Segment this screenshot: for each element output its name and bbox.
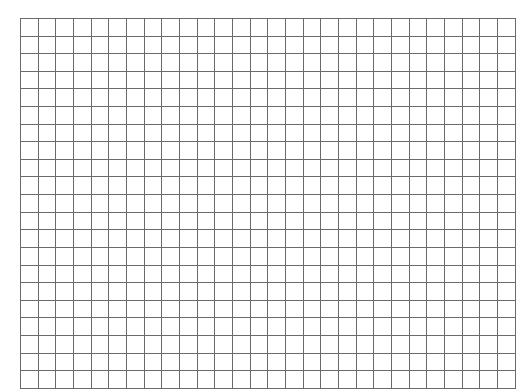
grid-cell[interactable] bbox=[445, 124, 463, 142]
grid-cell[interactable] bbox=[462, 318, 480, 336]
grid-cell[interactable] bbox=[462, 36, 480, 54]
grid-cell[interactable] bbox=[339, 71, 357, 89]
grid-cell[interactable] bbox=[109, 36, 127, 54]
grid-cell[interactable] bbox=[109, 247, 127, 265]
grid-cell[interactable] bbox=[91, 371, 109, 389]
grid-cell[interactable] bbox=[180, 247, 198, 265]
grid-cell[interactable] bbox=[374, 371, 392, 389]
grid-cell[interactable] bbox=[180, 335, 198, 353]
grid-cell[interactable] bbox=[38, 353, 56, 371]
grid-cell[interactable] bbox=[321, 247, 339, 265]
grid-cell[interactable] bbox=[233, 353, 251, 371]
grid-cell[interactable] bbox=[498, 54, 516, 72]
grid-cell[interactable] bbox=[250, 335, 268, 353]
grid-cell[interactable] bbox=[144, 124, 162, 142]
grid-cell[interactable] bbox=[180, 177, 198, 195]
grid-cell[interactable] bbox=[409, 159, 427, 177]
grid-cell[interactable] bbox=[162, 335, 180, 353]
grid-cell[interactable] bbox=[339, 247, 357, 265]
grid-cell[interactable] bbox=[162, 54, 180, 72]
grid-cell[interactable] bbox=[268, 195, 286, 213]
grid-cell[interactable] bbox=[56, 195, 74, 213]
grid-cell[interactable] bbox=[74, 353, 92, 371]
grid-cell[interactable] bbox=[462, 335, 480, 353]
grid-cell[interactable] bbox=[409, 124, 427, 142]
grid-cell[interactable] bbox=[498, 230, 516, 248]
grid-cell[interactable] bbox=[180, 300, 198, 318]
grid-cell[interactable] bbox=[480, 283, 498, 301]
grid-cell[interactable] bbox=[339, 107, 357, 125]
grid-cell[interactable] bbox=[480, 142, 498, 160]
grid-cell[interactable] bbox=[374, 124, 392, 142]
grid-cell[interactable] bbox=[56, 89, 74, 107]
grid-cell[interactable] bbox=[197, 300, 215, 318]
grid-cell[interactable] bbox=[339, 265, 357, 283]
grid-cell[interactable] bbox=[480, 71, 498, 89]
grid-cell[interactable] bbox=[445, 265, 463, 283]
grid-cell[interactable] bbox=[180, 195, 198, 213]
grid-cell[interactable] bbox=[180, 36, 198, 54]
grid-cell[interactable] bbox=[392, 212, 410, 230]
grid-cell[interactable] bbox=[162, 89, 180, 107]
grid-cell[interactable] bbox=[56, 142, 74, 160]
grid-cell[interactable] bbox=[215, 247, 233, 265]
grid-cell[interactable] bbox=[480, 230, 498, 248]
grid-cell[interactable] bbox=[286, 353, 304, 371]
grid-cell[interactable] bbox=[38, 89, 56, 107]
grid-cell[interactable] bbox=[427, 71, 445, 89]
grid-cell[interactable] bbox=[321, 318, 339, 336]
grid-cell[interactable] bbox=[127, 247, 145, 265]
grid-cell[interactable] bbox=[374, 142, 392, 160]
grid-cell[interactable] bbox=[109, 107, 127, 125]
grid-cell[interactable] bbox=[286, 230, 304, 248]
grid-cell[interactable] bbox=[321, 54, 339, 72]
grid-cell[interactable] bbox=[498, 283, 516, 301]
grid-cell[interactable] bbox=[498, 265, 516, 283]
grid-cell[interactable] bbox=[480, 318, 498, 336]
grid-cell[interactable] bbox=[215, 54, 233, 72]
grid-cell[interactable] bbox=[74, 71, 92, 89]
grid-cell[interactable] bbox=[180, 212, 198, 230]
grid-cell[interactable] bbox=[303, 177, 321, 195]
grid-cell[interactable] bbox=[109, 54, 127, 72]
grid-cell[interactable] bbox=[144, 230, 162, 248]
grid-cell[interactable] bbox=[56, 124, 74, 142]
grid-cell[interactable] bbox=[303, 230, 321, 248]
grid-cell[interactable] bbox=[250, 300, 268, 318]
grid-cell[interactable] bbox=[303, 283, 321, 301]
grid-cell[interactable] bbox=[374, 318, 392, 336]
grid-cell[interactable] bbox=[392, 195, 410, 213]
grid-cell[interactable] bbox=[462, 371, 480, 389]
grid-cell[interactable] bbox=[498, 300, 516, 318]
grid-cell[interactable] bbox=[303, 36, 321, 54]
grid-cell[interactable] bbox=[462, 230, 480, 248]
grid-cell[interactable] bbox=[109, 335, 127, 353]
grid-cell[interactable] bbox=[498, 212, 516, 230]
grid-cell[interactable] bbox=[56, 353, 74, 371]
grid-cell[interactable] bbox=[268, 212, 286, 230]
grid-cell[interactable] bbox=[409, 89, 427, 107]
grid-cell[interactable] bbox=[56, 107, 74, 125]
grid-cell[interactable] bbox=[268, 142, 286, 160]
grid-cell[interactable] bbox=[38, 335, 56, 353]
grid-cell[interactable] bbox=[339, 300, 357, 318]
grid-cell[interactable] bbox=[445, 230, 463, 248]
grid-cell[interactable] bbox=[215, 195, 233, 213]
grid-cell[interactable] bbox=[409, 283, 427, 301]
grid-cell[interactable] bbox=[180, 107, 198, 125]
grid-cell[interactable] bbox=[56, 159, 74, 177]
grid-cell[interactable] bbox=[21, 353, 39, 371]
grid-cell[interactable] bbox=[162, 265, 180, 283]
grid-cell[interactable] bbox=[233, 230, 251, 248]
grid-cell[interactable] bbox=[144, 36, 162, 54]
grid-cell[interactable] bbox=[250, 230, 268, 248]
grid-cell[interactable] bbox=[356, 212, 374, 230]
grid-cell[interactable] bbox=[498, 335, 516, 353]
grid-cell[interactable] bbox=[162, 142, 180, 160]
grid-cell[interactable] bbox=[127, 124, 145, 142]
grid-cell[interactable] bbox=[38, 265, 56, 283]
grid-cell[interactable] bbox=[127, 36, 145, 54]
grid-cell[interactable] bbox=[321, 353, 339, 371]
grid-cell[interactable] bbox=[91, 142, 109, 160]
grid-cell[interactable] bbox=[374, 19, 392, 37]
